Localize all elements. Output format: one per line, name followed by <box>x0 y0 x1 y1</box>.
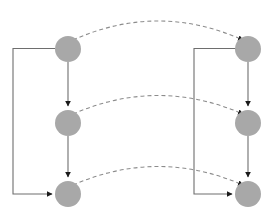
diagram-canvas <box>0 0 268 218</box>
node-right-bottom[interactable] <box>235 181 261 207</box>
node-right-middle[interactable] <box>235 110 261 136</box>
node-flow-diagram <box>0 0 268 218</box>
dashed-edge-middle <box>73 96 243 115</box>
dashed-edge-top <box>73 21 243 40</box>
left-feedback-loop <box>13 49 55 195</box>
node-left-top[interactable] <box>55 36 81 62</box>
right-feedback-loop-path <box>194 49 236 195</box>
node-left-middle[interactable] <box>55 110 81 136</box>
left-feedback-loop-path <box>13 49 55 195</box>
dashed-cross-edges <box>73 21 243 185</box>
node-left-bottom[interactable] <box>55 181 81 207</box>
right-feedback-loop <box>194 49 236 195</box>
node-group-left <box>55 36 81 207</box>
dashed-edge-bottom <box>73 167 243 186</box>
node-group-right <box>235 36 261 207</box>
node-right-top[interactable] <box>235 36 261 62</box>
